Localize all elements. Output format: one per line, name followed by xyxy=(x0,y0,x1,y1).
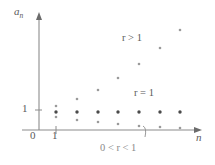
figure-container: an n 0 1 1 r > 1 r = 1 0 < r < 1 xyxy=(0,0,215,165)
data-point xyxy=(76,119,79,122)
data-point xyxy=(138,63,141,66)
y-axis-label: an xyxy=(14,6,23,20)
data-point xyxy=(158,110,161,113)
series-r-between-0-and-1 xyxy=(55,116,182,130)
data-point xyxy=(76,98,79,101)
data-point xyxy=(97,121,100,124)
annotation-r-greater-than-1: r > 1 xyxy=(122,33,142,44)
y-axis-arrow-icon xyxy=(36,12,42,20)
x-axis-label-text: n xyxy=(196,131,202,143)
data-point xyxy=(179,127,182,130)
y-axis-tick-label-1: 1 xyxy=(22,103,28,114)
data-point xyxy=(159,126,162,129)
data-point xyxy=(55,105,58,108)
x-axis-tick-label-1: 1 xyxy=(52,130,58,141)
data-point xyxy=(117,123,120,126)
data-point xyxy=(138,125,141,128)
data-point xyxy=(116,110,119,113)
origin-label: 0 xyxy=(30,130,36,141)
annotation-r-between-0-and-1: 0 < r < 1 xyxy=(100,143,136,154)
data-point xyxy=(159,47,162,50)
data-point xyxy=(178,110,181,113)
series-r-equals-1 xyxy=(54,110,181,113)
data-point xyxy=(117,77,120,80)
x-axis-label: n xyxy=(196,132,202,143)
decreasing-series-pointer xyxy=(143,126,146,137)
data-point xyxy=(75,110,78,113)
data-point xyxy=(55,116,58,119)
data-point xyxy=(97,89,100,92)
series-r-greater-than-1 xyxy=(55,29,182,108)
data-point xyxy=(96,110,99,113)
y-axis-label-subscript: n xyxy=(20,11,24,20)
data-point xyxy=(137,110,140,113)
annotation-r-equals-1: r = 1 xyxy=(134,88,154,99)
data-point xyxy=(179,29,182,32)
data-point xyxy=(54,110,57,113)
